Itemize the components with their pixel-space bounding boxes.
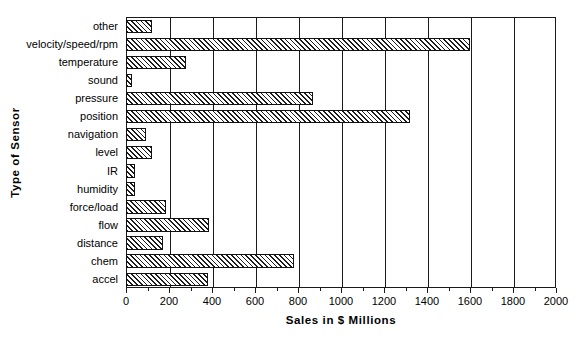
bar — [126, 128, 146, 141]
x-axis-tick-label: 1000 — [318, 294, 364, 308]
bar-row — [126, 71, 556, 89]
x-axis-tick — [513, 288, 514, 293]
x-axis-tick — [255, 288, 256, 293]
y-axis-tick-labels: othervelocity/speed/rpmtemperaturesoundp… — [22, 17, 122, 288]
y-axis-tick-label: chem — [91, 252, 118, 270]
x-axis-minor-tick — [492, 288, 493, 291]
x-axis-minor-tick — [277, 288, 278, 291]
bar-row — [126, 125, 556, 143]
x-axis-tick — [384, 288, 385, 293]
x-axis-tick — [126, 288, 127, 293]
y-axis-tick-label: distance — [77, 234, 118, 252]
x-axis-tick-label: 1600 — [447, 294, 493, 308]
x-axis-minor-tick — [449, 288, 450, 291]
x-axis-minor-tick — [234, 288, 235, 291]
bar-row — [126, 216, 556, 234]
x-axis-tick-label: 1400 — [404, 294, 450, 308]
y-axis-tick-label: sound — [88, 71, 118, 89]
bar-row — [126, 252, 556, 270]
x-axis-tick — [298, 288, 299, 293]
x-axis-tick — [427, 288, 428, 293]
x-axis-tick-label: 1800 — [490, 294, 536, 308]
bar — [126, 236, 163, 249]
bar-row — [126, 162, 556, 180]
y-axis-tick-label: force/load — [70, 198, 118, 216]
y-axis-tick-label: IR — [107, 162, 118, 180]
bar-row — [126, 143, 556, 161]
bar-row — [126, 53, 556, 71]
bar-row — [126, 107, 556, 125]
x-axis-minor-tick — [148, 288, 149, 291]
x-axis-tick-label: 600 — [232, 294, 278, 308]
bar — [126, 110, 410, 123]
x-axis-tick — [470, 288, 471, 293]
x-axis-tick-label: 0 — [103, 294, 149, 308]
x-axis-tick-label: 200 — [146, 294, 192, 308]
y-axis-tick-label: temperature — [59, 53, 118, 71]
x-axis-minor-tick — [191, 288, 192, 291]
x-axis-tick — [341, 288, 342, 293]
x-axis-tick — [556, 288, 557, 293]
bar — [126, 164, 135, 177]
bar — [126, 200, 166, 213]
x-axis-tick-label: 800 — [275, 294, 321, 308]
bar-row — [126, 17, 556, 35]
bar — [126, 218, 209, 231]
bar — [126, 273, 208, 286]
bar — [126, 20, 152, 33]
bar-row — [126, 198, 556, 216]
x-axis-tick-label: 2000 — [533, 294, 579, 308]
bar — [126, 92, 313, 105]
y-axis-tick-label: humidity — [77, 180, 118, 198]
x-axis-tick — [169, 288, 170, 293]
bar — [126, 56, 186, 69]
bar-row — [126, 234, 556, 252]
x-axis-tick-labels: 0200400600800100012001400160018002000 — [126, 294, 556, 308]
bar-row — [126, 35, 556, 53]
x-axis-minor-tick — [535, 288, 536, 291]
x-axis-tick-label: 400 — [189, 294, 235, 308]
y-axis-tick-label: pressure — [75, 89, 118, 107]
bar-row — [126, 180, 556, 198]
bars-layer — [126, 17, 556, 288]
x-axis-minor-tick — [406, 288, 407, 291]
x-axis-title: Sales in $ Millions — [126, 314, 556, 326]
y-axis-tick-label: other — [93, 17, 118, 35]
bar — [126, 74, 132, 87]
y-axis-tick-label: velocity/speed/rpm — [26, 35, 118, 53]
x-axis-tick — [212, 288, 213, 293]
bar — [126, 146, 152, 159]
bar-row — [126, 270, 556, 288]
y-axis-tick-label: flow — [98, 216, 118, 234]
x-axis-minor-tick — [363, 288, 364, 291]
bar-row — [126, 89, 556, 107]
y-axis-tick-label: navigation — [68, 125, 118, 143]
bar-chart: Type of Sensor othervelocity/speed/rpmte… — [0, 0, 584, 349]
x-axis-tick-label: 1200 — [361, 294, 407, 308]
y-axis-tick-label: accel — [92, 270, 118, 288]
bar — [126, 38, 470, 51]
bar — [126, 182, 135, 195]
y-axis-tick-label: position — [80, 107, 118, 125]
x-axis-minor-tick — [320, 288, 321, 291]
y-axis-tick-label: level — [95, 143, 118, 161]
bar — [126, 254, 294, 267]
